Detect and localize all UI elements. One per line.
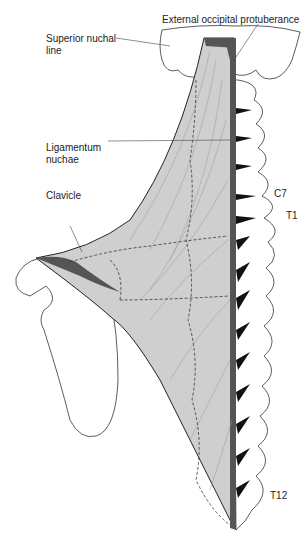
label-external-occipital-protuberance: External occipital protuberance [162,14,299,26]
label-ligamentum-nuchae: Ligamentum nuchae [46,142,101,166]
label-superior-nuchal-line-2: line [46,45,116,57]
label-superior-nuchal-line-1: Superior nuchal [46,33,116,45]
label-ligamentum-nuchae-2: nuchae [46,154,101,166]
label-c7: C7 [274,188,287,200]
label-ligamentum-nuchae-1: Ligamentum [46,142,101,154]
trapezius-diagram [0,0,308,543]
label-t12: T12 [270,490,287,502]
label-superior-nuchal-line: Superior nuchal line [46,33,116,57]
label-clavicle: Clavicle [46,190,81,202]
label-t1: T1 [286,210,298,222]
